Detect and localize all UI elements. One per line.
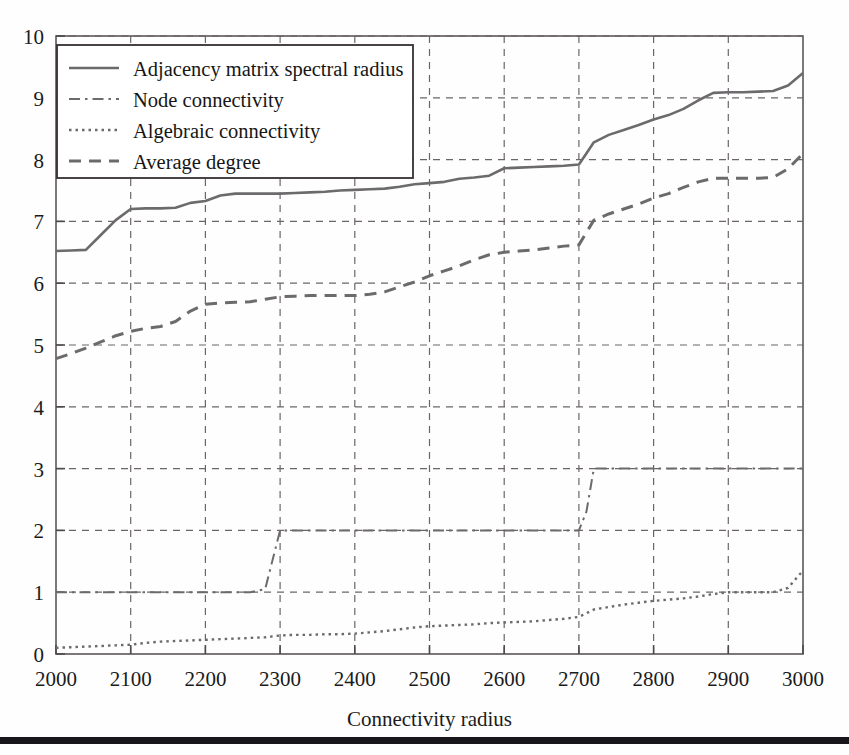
- x-tick-label: 2700: [558, 667, 600, 691]
- y-tick-label: 6: [34, 272, 45, 296]
- x-tick-label: 2600: [483, 667, 525, 691]
- y-tick-label: 2: [34, 519, 45, 543]
- legend-label: Algebraic connectivity: [133, 120, 321, 143]
- legend: Adjacency matrix spectral radiusNode con…: [57, 45, 413, 178]
- y-tick-label: 3: [34, 458, 45, 482]
- x-tick-label: 2000: [35, 667, 77, 691]
- figure-container: 0123456789102000210022002300240025002600…: [0, 0, 849, 755]
- bottom-rule-divider: [0, 737, 849, 744]
- x-tick-label: 2400: [334, 667, 376, 691]
- y-tick-label: 5: [34, 334, 45, 358]
- legend-label: Adjacency matrix spectral radius: [133, 58, 403, 81]
- x-tick-label: 3000: [782, 667, 824, 691]
- x-tick-label: 2100: [110, 667, 152, 691]
- line-chart: 0123456789102000210022002300240025002600…: [0, 0, 849, 755]
- x-tick-label: 2900: [707, 667, 749, 691]
- y-tick-label: 10: [23, 25, 44, 49]
- y-tick-label: 8: [34, 149, 45, 173]
- y-tick-label: 9: [34, 87, 45, 111]
- legend-label: Node connectivity: [133, 89, 285, 112]
- y-tick-label: 1: [34, 581, 45, 605]
- x-tick-label: 2500: [409, 667, 451, 691]
- y-tick-label: 7: [34, 210, 45, 234]
- legend-label: Average degree: [133, 151, 261, 174]
- x-tick-label: 2800: [633, 667, 675, 691]
- x-tick-label: 2300: [259, 667, 301, 691]
- y-tick-label: 0: [34, 643, 45, 667]
- x-axis-title: Connectivity radius: [347, 707, 512, 731]
- x-tick-label: 2200: [184, 667, 226, 691]
- y-tick-label: 4: [34, 396, 45, 420]
